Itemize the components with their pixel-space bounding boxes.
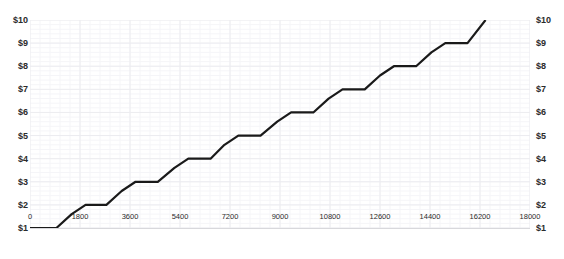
y-axis-left-tick-label: $6 — [18, 108, 28, 117]
x-axis-tick-label: 10800 — [320, 212, 341, 221]
y-axis-left-tick-label: $3 — [18, 178, 28, 187]
y-axis-left-tick-label: $8 — [18, 62, 28, 71]
x-axis-tick-label: 1800 — [72, 212, 89, 221]
chart-container: $1$1$2$2$3$3$4$4$5$5$6$6$7$7$8$8$9$9$10$… — [0, 0, 564, 259]
plot-area — [30, 20, 530, 228]
chart-title — [8, 0, 556, 6]
x-axis-line — [30, 228, 530, 229]
x-axis-tick-label: 9000 — [272, 212, 289, 221]
x-axis-tick-label: 7200 — [222, 212, 239, 221]
y-axis-right-tick-label: $2 — [536, 201, 546, 210]
y-axis-left-tick-label: $2 — [18, 201, 28, 210]
y-axis-left-tick-label: $7 — [18, 85, 28, 94]
y-axis-left-tick-label: $10 — [13, 16, 28, 25]
y-axis-right-tick-label: $5 — [536, 132, 546, 141]
x-axis-tick-label: 0 — [28, 212, 32, 221]
y-axis-left-tick-label: $5 — [18, 132, 28, 141]
x-axis-tick-label: 3600 — [122, 212, 139, 221]
y-axis-right-tick-label: $3 — [536, 178, 546, 187]
y-axis-right-tick-label: $8 — [536, 62, 546, 71]
y-axis-right-tick-label: $10 — [536, 16, 551, 25]
x-axis-tick-label: 5400 — [172, 212, 189, 221]
y-axis-left-tick-label: $1 — [18, 224, 28, 233]
x-axis-tick-label: 12600 — [370, 212, 391, 221]
y-axis-right-tick-label: $1 — [536, 224, 546, 233]
x-axis-tick-label: 18000 — [520, 212, 541, 221]
y-axis-left-tick-label: $4 — [18, 155, 28, 164]
x-axis-tick-label: 14400 — [420, 212, 441, 221]
y-axis-right-tick-label: $7 — [536, 85, 546, 94]
y-axis-left-tick-label: $9 — [18, 39, 28, 48]
data-line — [30, 20, 530, 228]
x-axis-tick-label: 16200 — [470, 212, 491, 221]
y-axis-right-tick-label: $6 — [536, 108, 546, 117]
y-axis-right-tick-label: $9 — [536, 39, 546, 48]
y-axis-right-tick-label: $4 — [536, 155, 546, 164]
